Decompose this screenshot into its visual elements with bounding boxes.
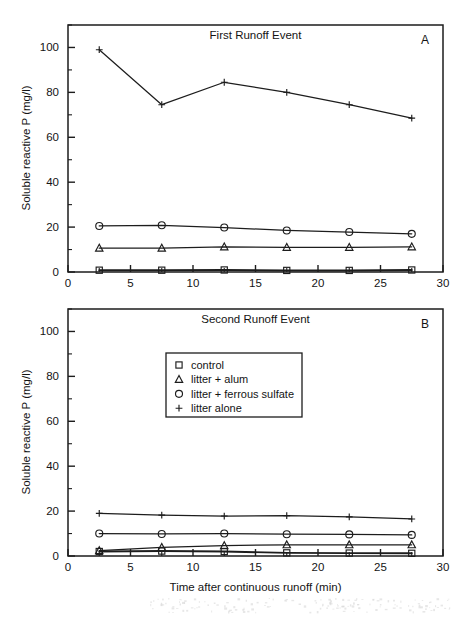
scan-speckle [162,599,164,601]
scan-speckle [320,600,322,601]
scan-speckle [243,611,245,613]
scan-speckle [208,604,209,606]
scan-speckle [309,612,311,614]
scan-speckle [348,606,349,607]
y-tick-label: 40 [46,176,59,188]
scan-speckle [335,598,336,600]
y-tick-label: 100 [40,41,59,53]
scan-speckle [214,603,216,605]
scan-speckle [347,600,350,601]
scan-speckle [388,600,390,602]
scan-speckle [251,608,254,610]
x-tick-label: 15 [249,561,262,573]
scan-speckle [172,606,174,607]
scan-speckle [196,607,197,608]
y-tick-label: 60 [46,131,59,143]
scan-speckle [181,600,182,601]
y-tick-label: 20 [46,221,59,233]
scan-speckle [400,607,402,608]
scan-speckle [375,609,377,611]
scan-speckle [172,612,173,613]
scan-speckle [182,610,184,612]
scan-speckle [353,611,354,612]
scan-speckle [270,606,271,607]
y-tick-label: 80 [46,370,59,382]
scan-speckle [421,606,423,608]
scan-speckle [186,610,188,612]
scan-speckle [380,604,382,606]
scan-speckle [373,599,374,601]
scan-speckle [257,602,259,604]
scan-speckle [449,609,450,610]
scan-speckle [393,608,396,609]
scan-speckle [317,611,319,613]
scan-speckle [337,605,339,606]
panel-a-letter: A [421,33,429,47]
scan-speckle [337,604,338,605]
y-tick-label: 60 [46,415,59,427]
scan-speckle [350,604,351,606]
scan-speckle [228,611,229,613]
scan-speckle [353,602,355,604]
scan-speckle [395,604,396,605]
scan-speckle [377,600,380,601]
panel-a-title: First Runoff Event [210,29,303,41]
scan-speckle [448,599,450,600]
scan-speckle [393,600,395,602]
scan-speckle [265,602,267,603]
scan-speckle [343,611,346,612]
scan-speckle [415,600,416,601]
scan-speckle [161,604,163,606]
scan-speckle [380,606,381,607]
scan-speckle [385,609,388,610]
scan-speckle [211,611,212,613]
x-tick-label: 5 [127,561,133,573]
x-tick-label: 30 [437,561,450,573]
scan-speckle [366,612,367,613]
scan-speckle [194,598,196,600]
y-tick-label: 0 [53,550,59,562]
legend-label: litter alone [191,402,242,414]
x-tick-label: 20 [312,277,325,289]
scan-speckle [180,604,181,606]
scan-speckle [267,606,270,607]
panel-b-title: Second Runoff Event [201,313,310,325]
scan-speckle [330,604,331,605]
scan-speckle [327,605,329,606]
scan-speckle [179,601,180,603]
y-tick-label: 0 [53,266,59,278]
scan-speckle [419,607,422,609]
scan-speckle [291,600,294,601]
scan-speckle [409,609,412,611]
scan-speckle [191,607,194,608]
scan-speckle [380,598,383,600]
scan-speckle [429,602,430,603]
scan-speckle [316,602,317,604]
scan-speckle [165,603,166,604]
scan-speckle [251,603,253,605]
scan-speckle [437,598,440,600]
legend-item-litter-ferrous-sulfate: litter + ferrous sulfate [176,388,295,400]
scan-speckle [150,602,152,603]
scan-speckle [422,600,423,601]
scan-speckle [224,608,227,610]
scan-speckle [242,609,244,611]
scan-speckle [264,605,265,606]
legend-label: litter + ferrous sulfate [191,388,294,400]
scan-speckle [396,606,398,607]
legend-label: litter + alum [191,373,248,385]
scan-speckle [238,598,241,600]
scan-speckle [304,605,306,607]
scan-speckle [273,599,274,601]
x-tick-label: 30 [437,277,450,289]
scan-speckle [419,605,421,607]
scan-speckle [361,599,363,600]
scan-speckle [153,600,154,601]
y-tick-label: 40 [46,460,59,472]
scan-speckle [437,607,439,608]
scan-speckle [433,609,435,611]
scan-speckle [370,604,371,606]
scan-speckle [204,601,205,602]
x-tick-label: 25 [374,561,387,573]
scan-speckle [358,607,360,609]
